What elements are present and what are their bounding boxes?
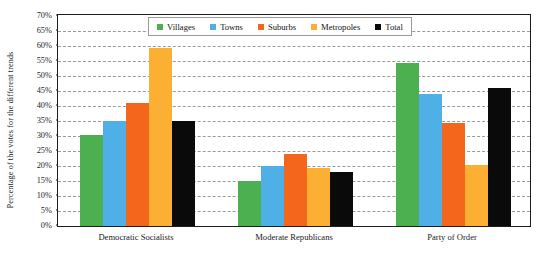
legend-label: Metropoles — [321, 22, 360, 32]
legend-swatch-icon — [375, 24, 381, 30]
x-axis-tick-label: Moderate Republicans — [255, 232, 333, 242]
bar — [80, 135, 103, 227]
bar-group — [80, 15, 195, 226]
y-axis-tick-label: 60% — [37, 41, 52, 50]
legend-item: Villages — [157, 22, 195, 32]
y-axis-tick-label: 5% — [41, 206, 52, 215]
bar — [442, 123, 465, 227]
legend-label: Villages — [167, 22, 195, 32]
bar — [126, 103, 149, 226]
bars-layer — [58, 15, 530, 226]
bar — [149, 48, 172, 227]
bar — [396, 63, 419, 227]
y-axis-tick-label: 30% — [37, 131, 52, 140]
y-axis-title: Percentage of the votes for the differen… — [2, 0, 18, 260]
y-axis-tick-label: 40% — [37, 101, 52, 110]
bar — [172, 121, 195, 226]
y-axis-tick-label: 45% — [37, 86, 52, 95]
y-axis-tick-label: 0% — [41, 221, 52, 230]
legend-swatch-icon — [210, 24, 216, 30]
bar — [284, 154, 307, 226]
y-axis-tick-labels: 0%5%10%15%20%25%30%35%40%45%50%55%60%65%… — [22, 14, 56, 227]
chart-legend: VillagesTownsSuburbsMetropolesTotal — [148, 17, 412, 36]
bar — [330, 172, 353, 226]
bar — [465, 165, 488, 227]
bar-group — [238, 15, 353, 226]
x-axis-tick-label: Democratic Socialists — [98, 232, 173, 242]
x-axis-tick-label: Party of Order — [427, 232, 477, 242]
legend-label: Suburbs — [268, 22, 296, 32]
y-axis-tick-label: 65% — [37, 26, 52, 35]
y-axis-tick-label: 50% — [37, 71, 52, 80]
bar — [488, 88, 511, 226]
bar — [419, 94, 442, 226]
legend-label: Towns — [220, 22, 243, 32]
y-axis-tick-label: 15% — [37, 176, 52, 185]
legend-swatch-icon — [157, 24, 163, 30]
legend-item: Towns — [210, 22, 243, 32]
bar — [103, 121, 126, 226]
bar-group — [396, 15, 511, 226]
y-axis-tick-label: 10% — [37, 191, 52, 200]
bar — [261, 166, 284, 226]
y-axis-tick-label: 35% — [37, 116, 52, 125]
legend-item: Total — [375, 22, 403, 32]
y-axis-tick-label: 20% — [37, 161, 52, 170]
legend-swatch-icon — [258, 24, 264, 30]
legend-label: Total — [385, 22, 403, 32]
y-axis-tick-label: 25% — [37, 146, 52, 155]
x-axis-tick-labels: Democratic SocialistsModerate Republican… — [57, 232, 531, 248]
y-axis-tick-label: 55% — [37, 56, 52, 65]
bar — [238, 181, 261, 226]
y-axis-tick-label: 70% — [37, 11, 52, 20]
plot-area — [57, 14, 531, 227]
legend-item: Metropoles — [311, 22, 360, 32]
bar-chart: Percentage of the votes for the differen… — [0, 0, 539, 260]
legend-item: Suburbs — [258, 22, 296, 32]
legend-swatch-icon — [311, 24, 317, 30]
bar — [307, 168, 330, 227]
